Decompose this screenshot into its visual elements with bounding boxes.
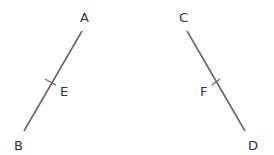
label-c: C bbox=[179, 10, 188, 25]
segment-ab: A B E bbox=[14, 10, 89, 153]
segment-cd: C D F bbox=[179, 10, 258, 153]
label-e: E bbox=[60, 84, 68, 99]
line-cd bbox=[187, 31, 245, 131]
label-f: F bbox=[200, 84, 207, 99]
label-b: B bbox=[14, 138, 23, 153]
label-d: D bbox=[248, 138, 258, 153]
label-a: A bbox=[80, 10, 89, 25]
line-ab bbox=[24, 31, 82, 131]
diagram-canvas: A B E C D F bbox=[0, 0, 274, 155]
